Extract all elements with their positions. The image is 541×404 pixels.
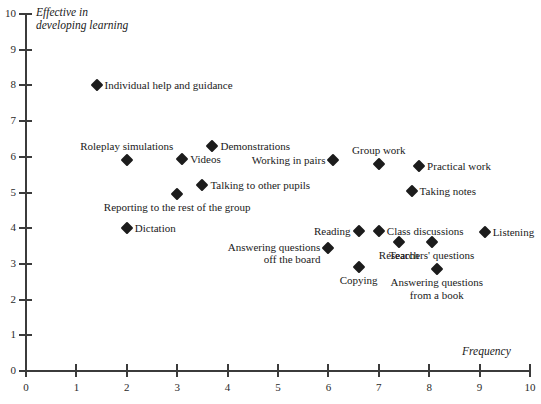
x-tick-mark [25,364,27,377]
data-point-label: Taking notes [420,184,476,197]
x-tick-label: 7 [369,381,389,393]
data-point-label: Talking to other pupils [210,179,310,192]
data-point-label: Videos [190,152,221,165]
data-point-label: Answering questions off the board [228,241,321,266]
data-point-marker [171,188,184,201]
data-point-marker [393,236,406,249]
y-tick-mark [19,120,32,122]
y-tick-label: 1 [0,328,16,340]
y-tick-label: 7 [0,114,16,126]
x-tick-label: 6 [318,381,338,393]
data-point-label: Listening [493,226,535,239]
data-point-label: Reporting to the rest of the group [104,201,251,214]
data-point-label: Group work [352,143,405,156]
x-tick-label: 4 [218,381,238,393]
data-point-marker [372,158,385,171]
data-point-marker [206,140,219,153]
data-point-marker [352,225,365,238]
data-point-label: Working in pairs [252,154,326,167]
data-point-label: Practical work [427,159,491,172]
data-point-label: Demonstrations [220,140,290,153]
scatter-chart: Effective in developing learning Frequen… [0,0,541,404]
y-tick-mark [19,13,32,15]
x-tick-mark [378,364,380,377]
y-tick-mark [19,334,32,336]
y-axis-title: Effective in developing learning [36,6,128,32]
data-point-marker [176,152,189,165]
y-tick-mark [19,299,32,301]
data-point-marker [120,154,133,167]
x-tick-label: 10 [520,381,540,393]
data-point-marker [322,241,335,254]
x-tick-label: 9 [470,381,490,393]
data-point-label: Individual help and guidance [105,79,233,92]
x-tick-mark [529,364,531,377]
x-tick-mark [428,364,430,377]
data-point-marker [405,184,418,197]
data-point-marker [425,236,438,249]
y-tick-label: 10 [0,7,16,19]
data-point-marker [352,261,365,274]
y-tick-label: 6 [0,150,16,162]
data-point-marker [90,79,103,92]
y-tick-label: 2 [0,293,16,305]
y-tick-mark [19,49,32,51]
y-tick-mark [19,227,32,229]
data-point-label: Dictation [135,222,176,235]
data-point-marker [413,159,426,172]
x-tick-mark [176,364,178,377]
data-point-label: Copying [340,274,378,287]
data-point-label: Roleplay simulations [80,140,173,153]
x-tick-label: 1 [66,381,86,393]
x-tick-mark [75,364,77,377]
x-tick-label: 0 [16,381,36,393]
x-tick-label: 8 [419,381,439,393]
x-tick-label: 3 [167,381,187,393]
x-tick-label: 2 [117,381,137,393]
y-tick-mark [19,84,32,86]
x-tick-mark [327,364,329,377]
data-point-label: Reading [314,225,351,238]
data-point-marker [327,154,340,167]
data-point-marker [478,225,491,238]
y-tick-label: 9 [0,43,16,55]
x-tick-mark [277,364,279,377]
data-point-label: Answering questions from a book [390,276,483,301]
y-tick-mark [19,156,32,158]
y-tick-label: 0 [0,364,16,376]
x-tick-mark [479,364,481,377]
data-point-marker [196,179,209,192]
data-point-label: Teachers' questions [389,249,474,262]
y-tick-label: 5 [0,186,16,198]
y-tick-label: 8 [0,78,16,90]
x-axis-title: Frequency [462,345,511,358]
x-tick-mark [227,364,229,377]
y-tick-mark [19,192,32,194]
data-point-marker [120,222,133,235]
data-point-marker [372,225,385,238]
x-tick-mark [126,364,128,377]
x-tick-label: 5 [268,381,288,393]
y-tick-label: 3 [0,257,16,269]
y-tick-label: 4 [0,221,16,233]
y-tick-mark [19,263,32,265]
data-point-marker [430,263,443,276]
